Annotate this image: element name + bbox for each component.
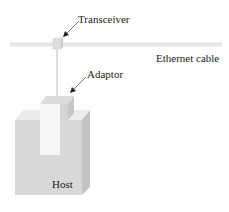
adaptor-arrow xyxy=(70,77,86,93)
host-label: Host xyxy=(52,178,73,190)
ethernet-cable-label: Ethernet cable xyxy=(156,52,219,64)
ethernet-cable xyxy=(10,43,222,46)
transceiver-box xyxy=(53,37,63,49)
transceiver-arrow xyxy=(63,21,79,37)
ethernet-diagram xyxy=(0,0,229,212)
adaptor-label: Adaptor xyxy=(87,68,123,80)
transceiver-label: Transceiver xyxy=(78,13,130,25)
